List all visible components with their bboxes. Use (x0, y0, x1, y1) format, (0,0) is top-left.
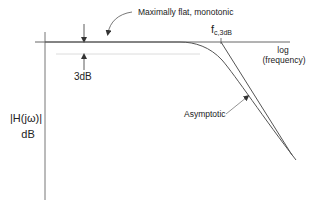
y-axis-label-line2: dB (21, 128, 34, 140)
y-axis-label-line1: |H(jω)| (10, 112, 42, 124)
maximally-flat-label: Maximally flat, monotonic (138, 7, 234, 17)
fc-label: fc,3dB (211, 23, 232, 36)
asymptotic-pointer-icon (226, 97, 247, 114)
frequency-response-diagram: Maximally flat, monotonic 3dB fc,3dB log… (0, 0, 311, 203)
asymptotic-label: Asymptotic (184, 109, 226, 119)
3db-label: 3dB (74, 71, 92, 82)
maximally-flat-pointer-icon (108, 12, 132, 33)
fc-label-sub: c,3dB (214, 29, 232, 36)
x-axis-label-line2: (frequency) (263, 55, 306, 65)
x-axis-label-line1: log (277, 45, 289, 55)
